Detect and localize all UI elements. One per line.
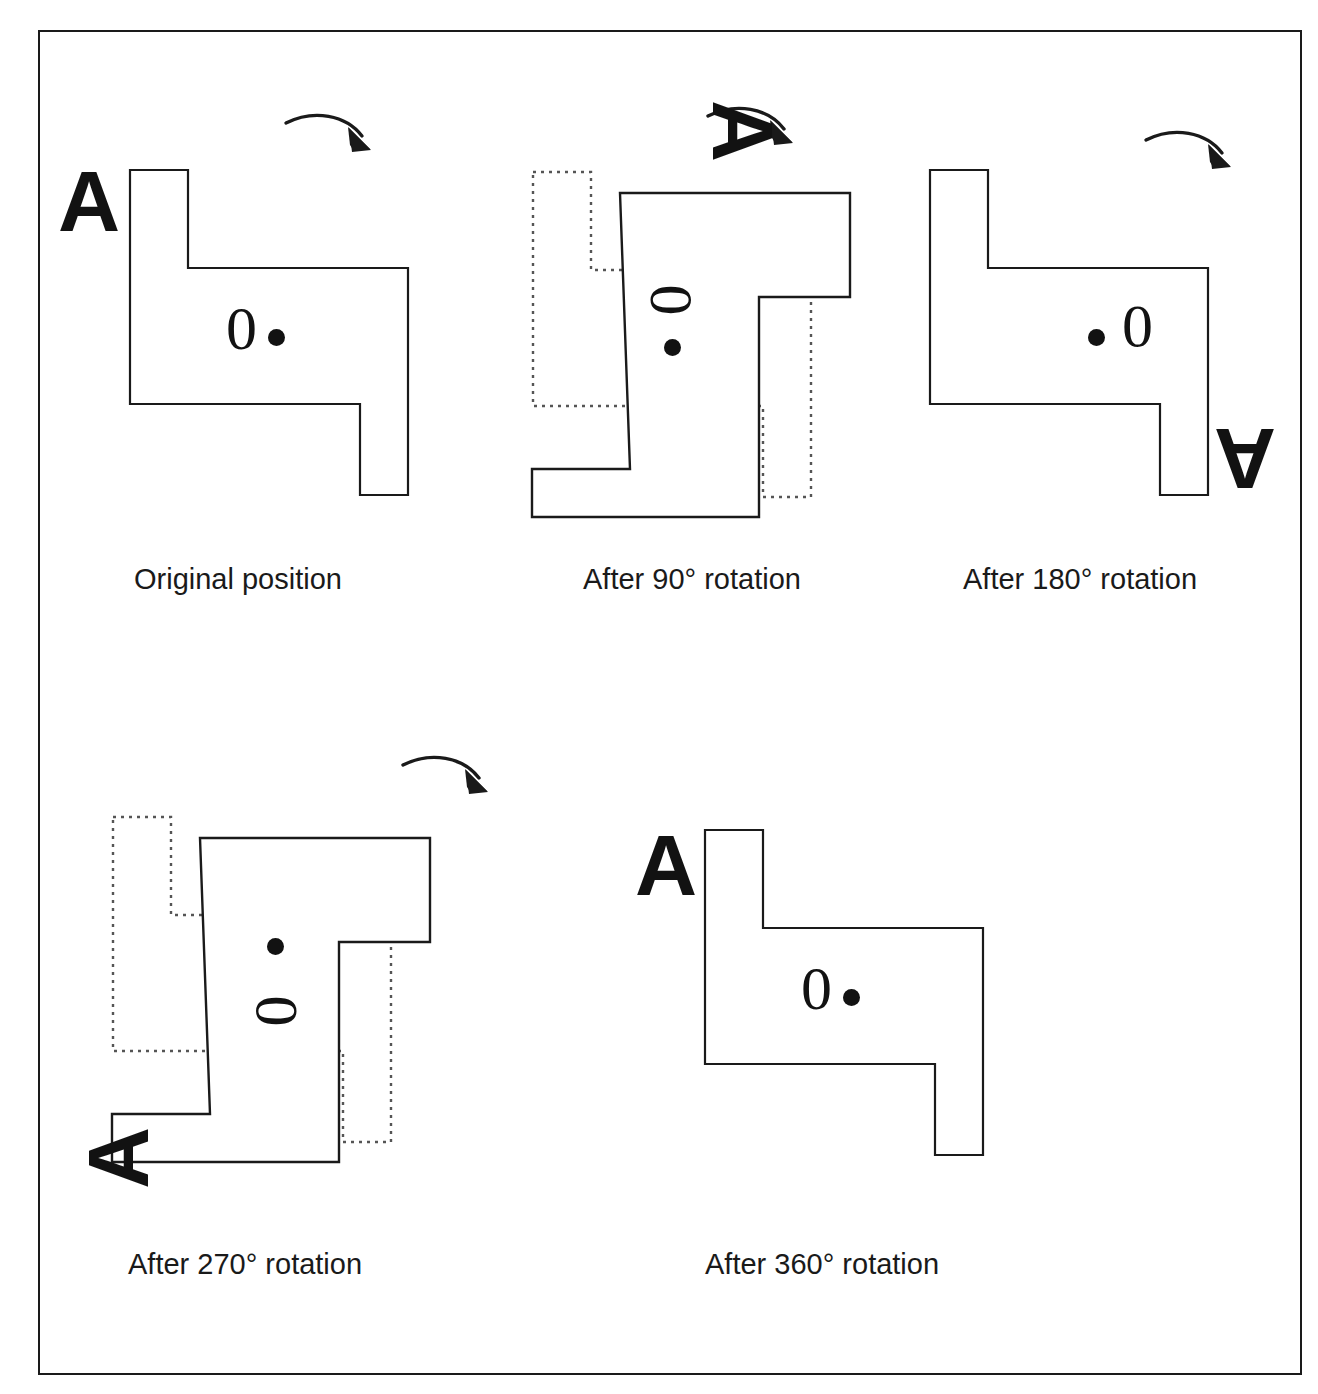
orientation-letter-a: A — [700, 100, 786, 162]
shape-rot270 — [95, 815, 425, 1155]
center-point-dot — [843, 989, 860, 1006]
center-digit-zero: 0 — [641, 285, 703, 316]
figure-page: A 0 Original position A 0 After 90 — [0, 0, 1318, 1394]
clockwise-rotation-arrow-icon — [278, 105, 408, 175]
center-point-dot — [267, 938, 284, 955]
shape-rot180 — [930, 170, 1220, 510]
panel-rot360: A 0 — [705, 830, 995, 1170]
panel-rot180: A 0 — [930, 170, 1220, 510]
panel-rot90: A 0 — [515, 170, 845, 510]
orientation-letter-a: A — [635, 822, 697, 908]
center-digit-zero: 0 — [226, 297, 257, 359]
panel-rot270: A 0 — [95, 815, 425, 1155]
caption-rot270: After 270° rotation — [128, 1248, 362, 1281]
caption-rot360: After 360° rotation — [705, 1248, 939, 1281]
center-digit-zero: 0 — [801, 957, 832, 1019]
orientation-letter-a: A — [58, 158, 120, 244]
clockwise-rotation-arrow-icon — [1138, 122, 1268, 192]
shape-rot90 — [515, 170, 845, 510]
caption-original: Original position — [134, 563, 342, 596]
center-point-dot — [1088, 329, 1105, 346]
orientation-letter-a: A — [75, 1127, 161, 1189]
caption-rot180: After 180° rotation — [963, 563, 1197, 596]
center-point-dot — [268, 329, 285, 346]
orientation-letter-a: A — [1214, 416, 1276, 502]
panel-original: A 0 — [130, 170, 420, 510]
caption-rot90: After 90° rotation — [583, 563, 801, 596]
center-digit-zero: 0 — [1122, 297, 1153, 359]
center-digit-zero: 0 — [244, 996, 306, 1027]
clockwise-rotation-arrow-icon — [395, 747, 525, 817]
center-point-dot — [664, 339, 681, 356]
